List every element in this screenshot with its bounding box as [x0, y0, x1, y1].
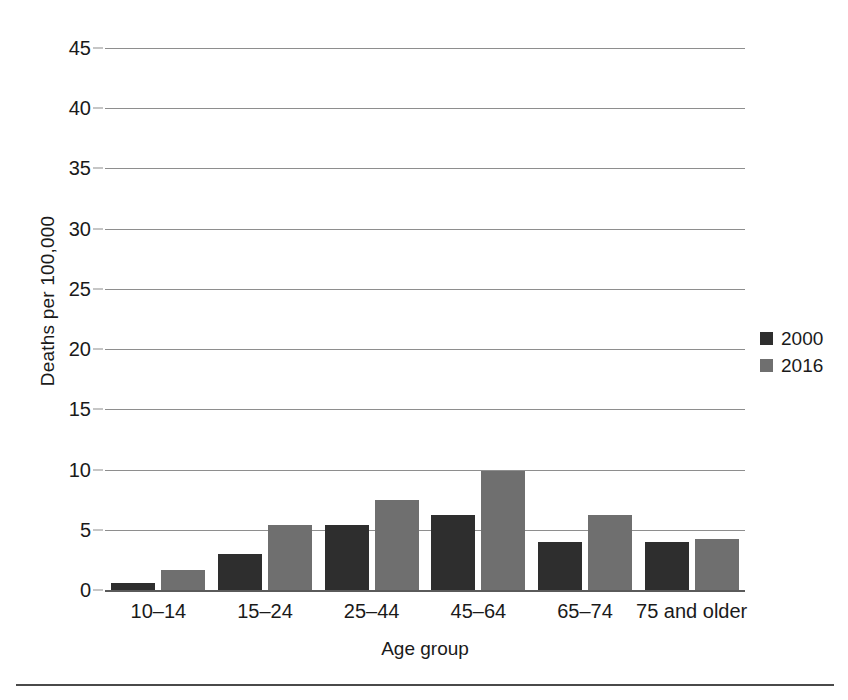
- bar-2016-45–64[interactable]: [481, 471, 525, 590]
- x-axis-title: Age group: [105, 638, 745, 660]
- y-tick-mark: [93, 108, 103, 109]
- y-tick-label: 15: [69, 398, 91, 421]
- bar-group: [645, 48, 739, 590]
- bar-group: [325, 48, 419, 590]
- chart-figure: Deaths per 100,000 051015202530354045 10…: [0, 0, 848, 700]
- bars-group: [105, 48, 745, 590]
- bar-2000-45–64[interactable]: [431, 515, 475, 590]
- legend-label: 2000: [781, 328, 823, 350]
- x-tick-label: 65–74: [557, 600, 613, 623]
- bar-2000-25–44[interactable]: [325, 525, 369, 590]
- y-tick-label: 25: [69, 277, 91, 300]
- y-tick-mark: [93, 48, 103, 49]
- bar-2016-75-and-older[interactable]: [695, 539, 739, 590]
- y-tick-mark: [93, 349, 103, 350]
- bar-2000-65–74[interactable]: [538, 542, 582, 590]
- bar-2000-15–24[interactable]: [218, 554, 262, 590]
- y-tick-label: 10: [69, 458, 91, 481]
- y-tick-mark: [93, 228, 103, 229]
- legend-swatch-icon: [760, 332, 773, 345]
- y-tick-label: 5: [80, 518, 91, 541]
- y-tick-label: 20: [69, 338, 91, 361]
- bar-group: [218, 48, 312, 590]
- y-tick-label: 45: [69, 37, 91, 60]
- bar-2016-25–44[interactable]: [375, 500, 419, 590]
- y-tick-label: 35: [69, 157, 91, 180]
- bar-group: [111, 48, 205, 590]
- y-tick-mark: [93, 288, 103, 289]
- legend-label: 2016: [781, 355, 823, 377]
- y-tick-mark: [93, 168, 103, 169]
- y-tick-label: 30: [69, 217, 91, 240]
- bar-group: [538, 48, 632, 590]
- x-tick-label: 10–14: [131, 600, 187, 623]
- legend-swatch-icon: [760, 359, 773, 372]
- y-tick-mark: [93, 469, 103, 470]
- bar-2016-65–74[interactable]: [588, 515, 632, 590]
- plot-area: 051015202530354045 10–1415–2425–4445–646…: [105, 48, 745, 590]
- bottom-divider: [16, 684, 834, 686]
- x-tick-label: 45–64: [451, 600, 507, 623]
- x-axis-baseline: [105, 590, 745, 592]
- bar-2016-15–24[interactable]: [268, 525, 312, 590]
- y-axis-title: Deaths per 100,000: [37, 191, 59, 411]
- y-tick-label: 0: [80, 579, 91, 602]
- y-tick-mark: [93, 529, 103, 530]
- bar-2016-10–14[interactable]: [161, 570, 205, 590]
- x-tick-label: 25–44: [344, 600, 400, 623]
- legend-item-2016[interactable]: 2016: [760, 352, 823, 379]
- y-tick-mark: [93, 409, 103, 410]
- x-tick-label: 75 and older: [636, 600, 747, 623]
- bar-2000-10–14[interactable]: [111, 583, 155, 590]
- legend-item-2000[interactable]: 2000: [760, 325, 823, 352]
- bar-2000-75-and-older[interactable]: [645, 542, 689, 590]
- bar-group: [431, 48, 525, 590]
- x-tick-label: 15–24: [237, 600, 293, 623]
- y-tick-label: 40: [69, 97, 91, 120]
- chart-legend: 20002016: [760, 325, 823, 379]
- y-tick-mark: [93, 590, 103, 591]
